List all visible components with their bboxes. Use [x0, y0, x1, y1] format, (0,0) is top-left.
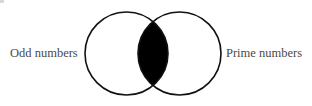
set-label-prime-numbers: Prime numbers — [226, 47, 302, 60]
set-label-odd-numbers: Odd numbers — [10, 47, 78, 60]
